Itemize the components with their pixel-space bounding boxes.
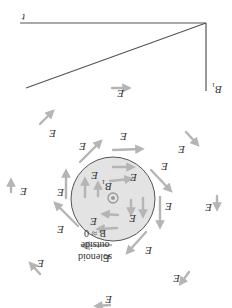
e-label: E <box>105 294 113 306</box>
b-decreasing-line <box>26 23 206 88</box>
e-label: E <box>117 88 125 100</box>
e-label: E <box>161 161 169 173</box>
e-label: E <box>173 273 181 285</box>
e-label: E <box>129 213 137 225</box>
b1-axis-label: B1 <box>211 81 222 96</box>
t-axis-label: t <box>21 12 25 24</box>
e-label: E <box>178 144 186 156</box>
e-label: E <box>91 170 99 182</box>
b-approx-zero: B ≈ 0 <box>84 228 106 239</box>
e-label: E <box>37 258 45 270</box>
e-label: E <box>20 186 28 198</box>
e-label: E <box>49 128 57 140</box>
field-out-of-page-dot <box>111 196 115 200</box>
induced-electric-field-diagram: t B1 B1 <box>0 0 232 308</box>
outside-solenoid-note: B ≈ 0 outside solenoid <box>78 228 112 263</box>
e-label: E <box>130 172 138 184</box>
e-label: E <box>205 202 213 214</box>
outside-text: outside <box>80 240 109 251</box>
e-label: E <box>145 245 153 257</box>
e-label: E <box>120 131 128 143</box>
e-label: E <box>90 216 98 228</box>
e-label: E <box>165 201 173 213</box>
e-label: E <box>57 224 65 236</box>
solenoid-text: solenoid <box>78 252 112 263</box>
e-label: E <box>79 141 87 153</box>
b-vs-t-graph: t B1 <box>20 12 222 96</box>
e-label: E <box>57 187 65 199</box>
